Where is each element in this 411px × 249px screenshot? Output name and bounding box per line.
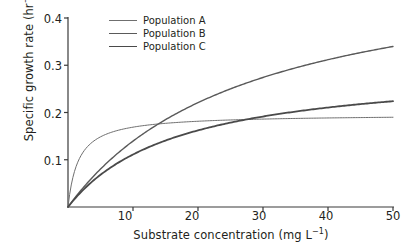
curve-population-a [68, 117, 393, 207]
data-curves [68, 46, 393, 207]
plot-area [0, 0, 411, 249]
chart-figure: Specific growth rate (hr−1) 0.4 0.3 0.2 … [0, 0, 411, 249]
axes [64, 17, 394, 211]
curve-population-b [68, 46, 393, 207]
